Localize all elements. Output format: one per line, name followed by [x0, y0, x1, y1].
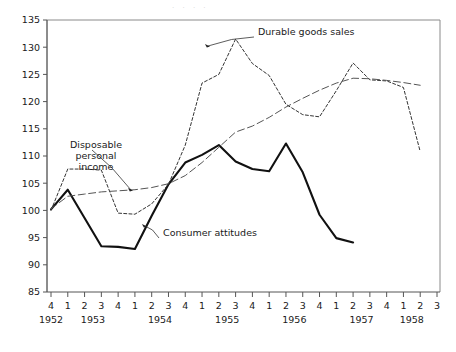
y-tick-label: 135 — [22, 14, 40, 25]
x-axis: 4123412341234123412341231952195319541955… — [39, 292, 440, 325]
annotations: Durable goods salesDisposablepersonalinc… — [70, 26, 355, 238]
x-quarter-label: 3 — [98, 300, 104, 311]
x-year-label: 1957 — [349, 314, 373, 325]
y-axis: 859095100105110115120125130135 — [22, 14, 47, 297]
x-quarter-label: 2 — [417, 300, 423, 311]
y-tick-label: 85 — [28, 286, 40, 297]
annotation-label-disposable-personal-income: income — [79, 161, 114, 172]
x-quarter-label: 1 — [132, 300, 138, 311]
y-tick-label: 105 — [22, 178, 40, 189]
y-tick-label: 90 — [28, 259, 40, 270]
y-tick-label: 95 — [28, 232, 40, 243]
y-tick-label: 110 — [22, 150, 40, 161]
x-quarter-label: 2 — [283, 300, 289, 311]
x-quarter-label: 4 — [316, 300, 322, 311]
x-quarter-label: 3 — [434, 300, 440, 311]
x-quarter-label: 1 — [333, 300, 339, 311]
x-quarter-label: 1 — [65, 300, 71, 311]
y-tick-label: 120 — [22, 96, 40, 107]
x-quarter-label: 3 — [367, 300, 373, 311]
x-year-label: 1955 — [215, 314, 239, 325]
series-line-durable-goods-sales — [51, 39, 420, 214]
x-quarter-label: 1 — [266, 300, 272, 311]
x-quarter-label: 3 — [165, 300, 171, 311]
x-quarter-label: 1 — [400, 300, 406, 311]
y-tick-label: 130 — [22, 42, 40, 53]
x-quarter-label: 3 — [300, 300, 306, 311]
x-quarter-label: 4 — [182, 300, 188, 311]
y-tick-label: 125 — [22, 69, 40, 80]
annotation-leader-durable-goods-sales — [208, 37, 254, 46]
x-year-label: 1958 — [400, 314, 424, 325]
annotation-label-durable-goods-sales: Durable goods sales — [258, 26, 355, 37]
line-chart: 859095100105110115120125130135 412341234… — [0, 0, 456, 352]
x-quarter-label: 2 — [216, 300, 222, 311]
x-quarter-label: 2 — [82, 300, 88, 311]
x-quarter-label: 1 — [199, 300, 205, 311]
x-year-label: 1954 — [148, 314, 172, 325]
x-year-label: 1952 — [39, 314, 63, 325]
chart-container: . . . . 859095100105110115120125130135 4… — [0, 0, 456, 352]
x-year-label: 1956 — [282, 314, 306, 325]
annotation-leader-consumer-attitudes — [145, 226, 159, 238]
x-quarter-label: 4 — [48, 300, 54, 311]
x-quarter-label: 2 — [350, 300, 356, 311]
x-quarter-label: 4 — [115, 300, 121, 311]
x-quarter-label: 4 — [384, 300, 390, 311]
x-quarter-label: 4 — [249, 300, 255, 311]
x-quarter-label: 3 — [233, 300, 239, 311]
y-tick-label: 100 — [22, 205, 40, 216]
annotation-label-disposable-personal-income: personal — [75, 150, 116, 161]
x-quarter-label: 2 — [149, 300, 155, 311]
annotation-label-consumer-attitudes: Consumer attitudes — [163, 227, 257, 238]
x-year-label: 1953 — [81, 314, 105, 325]
y-tick-label: 115 — [22, 123, 40, 134]
annotation-label-disposable-personal-income: Disposable — [70, 139, 122, 150]
